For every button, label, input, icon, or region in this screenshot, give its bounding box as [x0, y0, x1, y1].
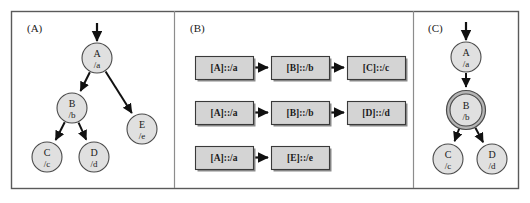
panel-c-node-d-name: D: [488, 149, 495, 160]
panel-a-node-b[interactable]: B/b: [57, 93, 87, 123]
panel-a-node-d[interactable]: D/d: [79, 142, 109, 172]
panel-b-chain-3-step-1-label: [A]::/a: [211, 153, 238, 163]
panel-b-chain-3: [A]::/a[E]::/e: [196, 147, 332, 172]
panel-a-label: (A): [27, 22, 43, 35]
panel-b-chain-1-step-3-label: [C]::/c: [363, 63, 389, 73]
panel-c-edge-b-c: [455, 129, 460, 141]
panel-b-chain-1-step-2[interactable]: [B]::/b: [272, 57, 332, 82]
panel-a-node-c-name: C: [44, 147, 51, 158]
panel-c-node-a-path: /a: [463, 59, 470, 69]
panel-c-node-b-name: B: [463, 100, 470, 111]
figure-container: (A)A/aB/bE/eC/cD/d(B)[A]::/a[B]::/b[C]::…: [0, 0, 530, 203]
diagram-canvas: (A)A/aB/bE/eC/cD/d(B)[A]::/a[B]::/b[C]::…: [0, 0, 530, 203]
panel-b-chain-2-step-2-label: [B]::/b: [287, 108, 314, 118]
panel-a-node-e[interactable]: E/e: [127, 114, 157, 144]
panel-b-chain-1-step-1[interactable]: [A]::/a: [196, 57, 256, 82]
panel-a-node-b-name: B: [69, 98, 76, 109]
panel-c-node-c-name: C: [445, 149, 452, 160]
panel-b-chain-1-step-3[interactable]: [C]::/c: [348, 57, 408, 82]
panel-b-chain-1: [A]::/a[B]::/b[C]::/c: [196, 57, 408, 82]
panel-c: (C)A/aB/bC/cD/d: [428, 22, 507, 174]
panel-a-node-c-path: /c: [44, 159, 51, 169]
panel-b-label: (B): [190, 22, 205, 35]
panel-c-node-b-path: /b: [462, 112, 470, 122]
panel-a-edge-b-c: [56, 122, 65, 140]
panel-c-node-a-name: A: [462, 47, 470, 58]
panel-a-edge-b-d: [79, 123, 87, 140]
panel-a: (A)A/aB/bE/eC/cD/d: [27, 22, 157, 172]
panel-a-node-a-path: /a: [94, 60, 101, 70]
panel-a-edge-a-b: [80, 72, 89, 91]
panel-b-chain-2-step-3[interactable]: [D]::/d: [348, 102, 408, 127]
panel-c-node-c-path: /c: [445, 161, 452, 171]
panel-b-chain-2-step-1-label: [A]::/a: [211, 108, 238, 118]
panel-a-node-e-name: E: [139, 119, 145, 130]
panel-a-node-d-path: /d: [90, 159, 98, 169]
panel-a-node-d-name: D: [90, 147, 97, 158]
panel-b-chain-2-step-3-label: [D]::/d: [362, 108, 390, 118]
panel-b-chain-2-step-1[interactable]: [A]::/a: [196, 102, 256, 127]
panel-a-node-a[interactable]: A/a: [82, 43, 112, 73]
panel-b-chain-3-step-2-label: [E]::/e: [287, 153, 313, 163]
panel-c-node-d[interactable]: D/d: [477, 144, 507, 174]
panel-c-node-a[interactable]: A/a: [451, 42, 481, 72]
panel-c-node-d-path: /d: [488, 161, 496, 171]
panel-c-edge-b-d: [475, 128, 483, 143]
panel-a-node-c[interactable]: C/c: [32, 142, 62, 172]
panel-b-chain-3-step-2[interactable]: [E]::/e: [272, 147, 332, 172]
panel-c-label: (C): [428, 22, 443, 35]
panel-a-edge-a-e: [106, 72, 132, 113]
panel-b-chain-2-step-2[interactable]: [B]::/b: [272, 102, 332, 127]
panel-a-node-b-path: /b: [68, 110, 76, 120]
panel-c-node-b[interactable]: B/b: [447, 91, 486, 130]
panel-a-node-a-name: A: [93, 48, 101, 59]
panel-b: (B)[A]::/a[B]::/b[C]::/c[A]::/a[B]::/b[D…: [190, 22, 408, 172]
panel-b-chain-3-step-1[interactable]: [A]::/a: [196, 147, 256, 172]
panel-a-node-e-path: /e: [139, 131, 146, 141]
panel-b-chain-2: [A]::/a[B]::/b[D]::/d: [196, 102, 408, 127]
panel-c-node-c[interactable]: C/c: [433, 144, 463, 174]
panel-b-chain-1-step-1-label: [A]::/a: [211, 63, 238, 73]
panel-b-chain-1-step-2-label: [B]::/b: [287, 63, 314, 73]
